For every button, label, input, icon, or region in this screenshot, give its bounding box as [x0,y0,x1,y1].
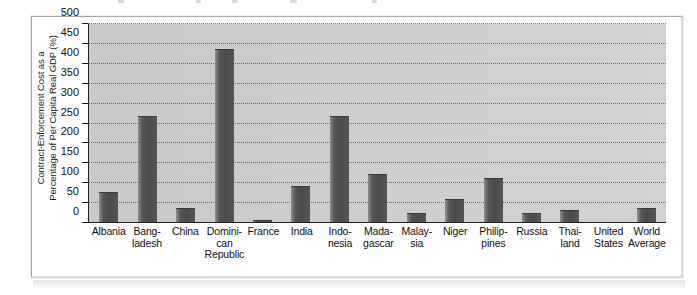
x-axis-label-india: India [283,226,321,270]
cropped-text-remnant [0,0,697,9]
bar-slot [589,24,627,222]
bar-slot [512,24,550,222]
y-axis-tick [82,103,88,104]
bar-slot [628,24,666,222]
bar-slot [397,24,435,222]
bar-world-average [637,208,656,222]
bar-slot [205,24,243,222]
chart-page: Contract-Enforcement Cost as a Percentag… [0,0,697,295]
bar-slot [90,24,128,222]
y-axis-tick [82,162,88,163]
x-axis-label-albania: Albania [90,226,128,270]
y-axis-tick [82,202,88,203]
bar-thailand [560,210,579,221]
x-axis-label-china: China [166,226,204,270]
bar-slot [128,24,166,222]
bar-russia [522,213,541,222]
x-axis-label-united-states: United States [589,226,627,270]
x-axis-label-indonesia: Indo- nesia [321,226,359,270]
bar-slot [282,24,320,222]
y-axis-tick-label: 250 [61,106,79,118]
bar-slot [474,24,512,222]
bar-slot [435,24,473,222]
x-axis-label-world-average: World Average [628,226,666,270]
y-axis-tick [82,123,88,124]
x-axis-label-thailand: Thai- land [551,226,589,270]
x-axis-label-russia: Russia [513,226,551,270]
y-axis-tick [82,182,88,183]
plot-wrapper: 050100150200250300350400450500 [88,24,666,223]
y-axis-tick-label: 300 [61,86,79,98]
x-axis-label-madagascar: Mada- gascar [359,226,397,270]
x-axis-label-france: France [244,226,282,270]
y-axis-title: Contract-Enforcement Cost as a Percentag… [34,20,60,216]
bar-malaysia [407,213,426,222]
y-axis-tick-label: 150 [61,145,79,157]
y-axis-tick-label: 350 [61,66,79,78]
x-axis-label-malaysia: Malay- sia [398,226,436,270]
bar-france [253,220,272,222]
bar-slot [359,24,397,222]
bar-china [176,208,195,222]
x-axis-label-dominican-republic: Domini- can Republic [205,226,245,270]
bar-madagascar [368,174,387,221]
bar-dominican-republic [215,49,234,222]
y-axis-tick-label: 0 [73,205,79,217]
bar-series [90,24,667,222]
y-axis-tick [82,142,88,143]
bar-philippines [484,178,503,221]
bar-niger [445,199,464,222]
y-axis-tick-label: 200 [61,125,79,137]
bar-albania [99,192,118,222]
y-axis-tick-label: 500 [61,6,79,18]
y-axis-tick [82,23,88,24]
bar-slot [551,24,589,222]
y-axis-tick-label: 400 [61,46,79,58]
y-axis-tick [82,63,88,64]
figure-bottom-shadow [33,280,685,289]
bar-slot [320,24,358,222]
bar-slot [166,24,204,222]
x-axis-label-philippines: Philip- pines [474,226,512,270]
bar-indonesia [330,116,349,222]
bar-slot [243,24,281,222]
x-axis-labels: AlbaniaBang- ladeshChinaDomini- can Repu… [90,226,667,270]
y-axis-tick-label: 50 [67,185,79,197]
bar-india [291,186,310,222]
y-axis-tick-label: 100 [61,165,79,177]
x-axis-label-bangladesh: Bang- ladesh [128,226,166,270]
x-axis-label-niger: Niger [436,226,474,270]
bar-bangladesh [138,116,157,222]
y-axis-tick [82,83,88,84]
y-axis-tick [82,222,88,223]
y-axis-tick-label: 450 [61,26,79,38]
y-axis-tick [82,43,88,44]
